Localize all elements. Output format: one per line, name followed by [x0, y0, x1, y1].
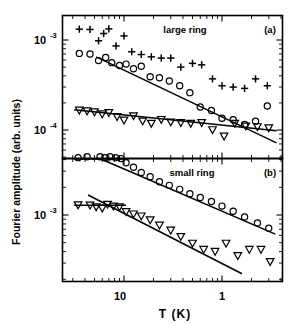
data-point-triangle — [139, 118, 147, 125]
data-point-triangle — [146, 217, 154, 224]
data-point-circle — [241, 214, 247, 220]
data-point-circle — [219, 203, 225, 209]
data-point-circle — [177, 186, 183, 192]
data-point-circle — [76, 50, 82, 56]
y-tick-mantissa: 10 — [34, 34, 46, 46]
data-point-circle — [266, 225, 272, 231]
fit-line-circle-fit — [96, 57, 276, 143]
data-point-triangle — [257, 246, 265, 253]
data-point-circle — [187, 90, 193, 96]
y-tick-label-1e-4-panel-a: 10 -4 — [34, 121, 57, 136]
data-point-circle — [138, 63, 144, 69]
x-tick-mantissa: 1 — [219, 290, 225, 302]
data-point-circle — [75, 155, 81, 161]
data-point-circle — [264, 103, 270, 109]
panel-a-frame — [63, 16, 283, 159]
panel-a-title: large ring — [163, 24, 206, 35]
data-point-triangle — [177, 234, 185, 241]
data-point-triangle — [234, 253, 242, 260]
x-tick-mantissa: 10 — [114, 290, 126, 302]
data-point-circle — [230, 208, 236, 214]
data-point-triangle — [211, 248, 219, 255]
data-point-circle — [103, 54, 109, 60]
x-axis-label: T (K) — [159, 307, 191, 321]
data-point-circle — [130, 66, 136, 72]
data-point-circle — [130, 164, 136, 170]
fourier-amplitude-log-log-figure: Fourier amplitude (arb. units) T (K) 10 … — [0, 0, 297, 324]
data-point-triangle — [120, 117, 128, 124]
y-tick-mantissa: 10 — [34, 124, 46, 136]
data-point-circle — [208, 198, 214, 204]
data-point-triangle — [220, 133, 228, 140]
series-a-triangle-series — [76, 107, 273, 140]
data-point-triangle — [122, 209, 130, 216]
panel-a-tag: (a) — [264, 24, 276, 35]
data-point-triangle — [157, 117, 165, 124]
y-tick-label-1e-3-panel-b: 10 -3 — [34, 206, 57, 221]
data-point-circle — [166, 78, 172, 84]
series-b-triangle-series — [74, 201, 274, 265]
x-tick-label-1: 1 — [219, 290, 225, 302]
data-point-triangle — [148, 120, 156, 127]
series-b-circle-series — [75, 154, 272, 232]
panel-b-title: small ring — [170, 167, 215, 178]
data-point-circle — [197, 194, 203, 200]
data-point-circle — [147, 174, 153, 180]
data-point-triangle — [156, 222, 164, 229]
y-tick-mantissa: 10 — [34, 209, 46, 221]
data-point-triangle — [222, 240, 230, 247]
data-point-circle — [187, 191, 193, 197]
data-point-circle — [87, 51, 93, 57]
data-point-triangle — [189, 240, 197, 247]
data-point-circle — [123, 61, 129, 67]
y-tick-exponent: -3 — [50, 31, 57, 40]
data-point-triangle — [209, 127, 217, 134]
data-point-circle — [147, 74, 153, 80]
y-tick-exponent: -4 — [50, 121, 57, 130]
data-point-triangle — [137, 213, 145, 220]
fit-lines-layer — [74, 57, 276, 274]
data-point-triangle — [246, 246, 254, 253]
data-point-circle — [254, 220, 260, 226]
y-tick-label-1e-3-panel-a: 10 -3 — [34, 31, 57, 46]
x-tick-label-1e-1: 10 — [114, 290, 126, 302]
figure-container: Fourier amplitude (arb. units) T (K) 10 … — [0, 0, 297, 324]
data-point-circle — [166, 182, 172, 188]
y-axis-label: Fourier amplitude (arb. units) — [10, 99, 22, 245]
series-a-plus-series — [76, 25, 271, 92]
data-point-triangle — [98, 205, 106, 212]
panel-b-tag: (b) — [264, 167, 276, 178]
data-point-circle — [138, 169, 144, 175]
data-point-circle — [156, 75, 162, 81]
data-point-circle — [177, 83, 183, 89]
axis-ticks-layer — [63, 16, 283, 282]
data-point-triangle — [167, 227, 175, 234]
y-tick-exponent: -3 — [50, 206, 57, 215]
data-point-triangle — [266, 259, 274, 266]
